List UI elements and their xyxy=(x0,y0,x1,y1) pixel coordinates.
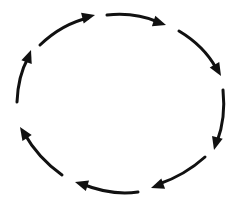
arrowhead-icon xyxy=(210,62,226,79)
arrow-shaft xyxy=(217,90,224,142)
cycle-diagram xyxy=(0,0,237,210)
arrow-shaft xyxy=(82,184,138,193)
cycle-arrow-6 xyxy=(73,177,138,193)
arrowhead-icon xyxy=(73,177,89,191)
arrowhead-icon xyxy=(209,136,223,151)
cycle-arrow-5 xyxy=(149,157,205,193)
arrow-shaft xyxy=(107,14,158,22)
cycle-arrow-8 xyxy=(17,48,36,102)
arrow-shaft xyxy=(159,157,205,184)
arrowhead-icon xyxy=(15,124,31,141)
arrow-shaft xyxy=(40,18,88,45)
cycle-arrow-3 xyxy=(179,31,226,79)
cycle-arrow-4 xyxy=(209,90,224,151)
arrow-shaft xyxy=(179,31,216,68)
arrowhead-icon xyxy=(81,10,96,24)
arrowhead-icon xyxy=(21,48,36,64)
cycle-arrow-1 xyxy=(40,10,96,45)
cycle-arrow-7 xyxy=(15,124,62,175)
arrow-shaft xyxy=(17,58,28,102)
arrow-shaft xyxy=(24,133,62,175)
arrowhead-icon xyxy=(152,16,168,30)
cycle-arrow-2 xyxy=(107,14,168,30)
arrowhead-icon xyxy=(149,178,165,193)
